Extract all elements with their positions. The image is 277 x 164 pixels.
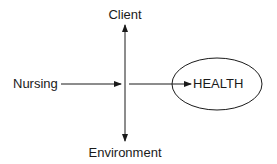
- health-label: HEALTH: [193, 77, 243, 90]
- environment-label: Environment: [89, 146, 162, 159]
- diagram-canvas: Client Environment Nursing HEALTH: [0, 0, 277, 164]
- client-label: Client: [108, 8, 141, 21]
- nursing-label: Nursing: [13, 77, 58, 90]
